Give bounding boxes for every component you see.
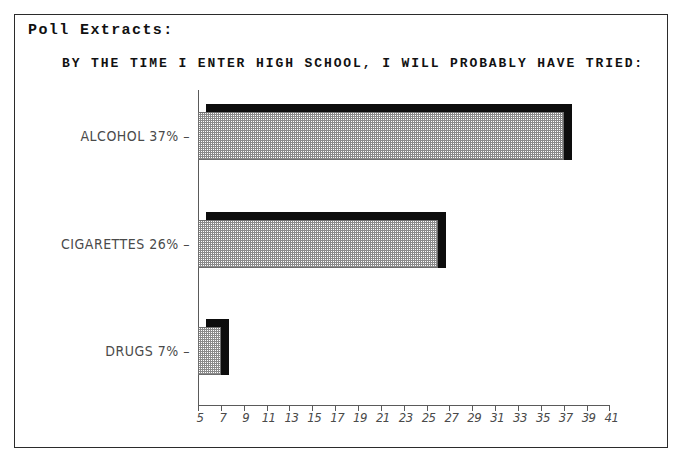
bar-label: ALCOHOL 37% – [20, 128, 190, 144]
x-axis-tick-label: 21 [376, 410, 390, 425]
x-axis-tick-label: 41 [605, 410, 619, 425]
x-axis-tick-label: 37 [559, 410, 573, 425]
x-axis-tick-label: 19 [353, 410, 367, 425]
bar-shadow-right [438, 212, 446, 268]
x-axis-tick-label: 29 [467, 410, 481, 425]
bar-label: DRUGS 7% – [20, 343, 190, 359]
x-axis-tick-label: 27 [445, 410, 459, 425]
x-axis-tick-label: 9 [242, 410, 249, 425]
x-axis-tick-label: 33 [513, 410, 527, 425]
bar-label: CIGARETTES 26% – [20, 236, 190, 252]
bar-shadow-right [221, 319, 229, 375]
x-axis-tick-label: 35 [536, 410, 550, 425]
bar-shadow-right [564, 104, 572, 160]
bar-shadow-top [206, 104, 572, 112]
bar-face [198, 220, 438, 268]
x-axis-tick-label: 15 [307, 410, 321, 425]
bar-chart-plot-area: 57911131517192123252729313335373941 ALCO… [0, 0, 684, 466]
x-axis-tick-label: 17 [330, 410, 344, 425]
bar-shadow-top [206, 212, 446, 220]
x-axis-tick-label: 39 [582, 410, 596, 425]
bar-face [198, 112, 564, 160]
x-axis-tick-label: 23 [399, 410, 413, 425]
x-axis-tick-label: 7 [219, 410, 226, 425]
x-axis-tick-label: 13 [284, 410, 298, 425]
x-axis-tick-label: 25 [422, 410, 436, 425]
x-axis-tick-label: 11 [262, 410, 276, 425]
x-axis-tick-label: 31 [490, 410, 504, 425]
poll-extract-chart-page: Poll Extracts: BY THE TIME I ENTER HIGH … [0, 0, 684, 466]
bar-face [198, 327, 221, 375]
x-axis-tick-label: 5 [197, 410, 204, 425]
